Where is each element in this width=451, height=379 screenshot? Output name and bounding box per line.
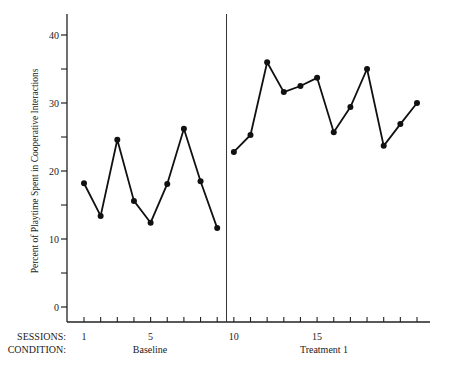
x-tick-label: 10 [229, 331, 239, 342]
x-tick-label: 5 [148, 331, 153, 342]
series-line-treatment [234, 62, 417, 152]
data-point [347, 104, 353, 110]
data-point [248, 132, 254, 138]
data-point [114, 137, 120, 143]
data-point [131, 198, 137, 204]
sessions-row-label: SESSIONS: [17, 331, 66, 342]
y-tick-label: 30 [49, 98, 59, 109]
data-point [148, 220, 154, 226]
x-tick-label: 15 [312, 331, 322, 342]
data-point [414, 100, 420, 106]
data-point [331, 129, 337, 135]
x-tick-label: 1 [82, 331, 87, 342]
data-point [297, 83, 303, 89]
data-point [181, 126, 187, 132]
data-point [231, 149, 237, 155]
phase-label-treatment: Treatment 1 [300, 344, 348, 355]
data-point [98, 213, 104, 219]
condition-row-label: CONDITION: [8, 344, 66, 355]
data-point [381, 143, 387, 149]
data-point [364, 66, 370, 72]
data-point [314, 75, 320, 81]
data-point [397, 121, 403, 127]
data-point [264, 59, 270, 65]
y-tick-label: 10 [49, 234, 59, 245]
data-point [281, 89, 287, 95]
axes: 010203040151015 [49, 14, 430, 342]
data-series [81, 59, 420, 231]
phase-label-baseline: Baseline [133, 344, 168, 355]
y-tick-label: 0 [54, 302, 59, 313]
y-tick-label: 40 [49, 30, 59, 41]
data-point [198, 178, 204, 184]
series-line-baseline [84, 129, 217, 228]
line-chart: 010203040151015 Percent of Playtime Spen… [0, 0, 451, 379]
data-point [214, 225, 220, 231]
y-tick-label: 20 [49, 166, 59, 177]
data-point [81, 180, 87, 186]
data-point [164, 181, 170, 187]
y-axis-title: Percent of Playtime Spent in Cooperative… [30, 68, 40, 273]
